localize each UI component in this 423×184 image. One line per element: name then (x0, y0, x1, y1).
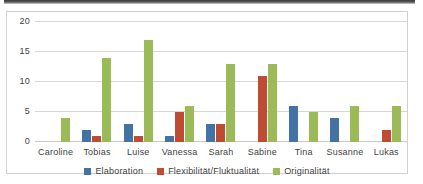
bar-group-bars (200, 22, 241, 142)
bar-group-bars (324, 22, 365, 142)
bar[interactable] (102, 58, 111, 142)
bar-group-bars (118, 22, 159, 142)
legend-swatch-icon (157, 168, 164, 175)
bar-group-bars (283, 22, 324, 142)
bar[interactable] (175, 112, 184, 142)
bar[interactable] (350, 106, 359, 142)
x-axis-category-label: Vanessa (162, 147, 198, 157)
x-axis-category-label: Tina (295, 147, 313, 157)
bar[interactable] (124, 124, 133, 142)
bar[interactable] (258, 76, 267, 142)
bar[interactable] (382, 130, 391, 142)
bar-group-bars (35, 22, 76, 142)
bar[interactable] (144, 40, 153, 142)
bar[interactable] (330, 118, 339, 142)
bar-group-bars (242, 22, 283, 142)
bar[interactable] (61, 118, 70, 142)
x-axis-category-label: Caroline (38, 147, 73, 157)
bar-group: Tina (283, 22, 324, 142)
x-axis-category-label: Tobias (83, 147, 110, 157)
bar[interactable] (165, 136, 174, 142)
bar[interactable] (92, 136, 101, 142)
bar-group-bars (76, 22, 117, 142)
x-axis-category-label: Sabine (248, 147, 277, 157)
chart-screenshot: 05101520 CarolineTobiasLuiseVanessaSarah… (0, 0, 423, 184)
legend-item[interactable]: Flexibilität/Fluktualität (157, 166, 259, 176)
top-edge-strip (4, 0, 415, 4)
y-axis-tick-label: 5 (25, 106, 30, 116)
bar-group: Luise (118, 22, 159, 142)
y-axis-tick-label: 10 (20, 76, 30, 86)
bar-group: Sarah (200, 22, 241, 142)
y-axis-tick-label: 15 (20, 46, 30, 56)
bar-group: Lukas (366, 22, 407, 142)
legend-swatch-icon (84, 168, 91, 175)
bar[interactable] (206, 124, 215, 142)
bar[interactable] (289, 106, 298, 142)
legend-swatch-icon (273, 168, 280, 175)
bar-group: Vanessa (159, 22, 200, 142)
chart-legend: ElaborationFlexibilität/FluktualitätOrig… (7, 166, 407, 176)
bar[interactable] (185, 106, 194, 142)
legend-item[interactable]: Originalität (273, 166, 329, 176)
x-axis-category-label: Lukas (374, 147, 399, 157)
bar-group: Tobias (76, 22, 117, 142)
bar[interactable] (134, 136, 143, 142)
bar[interactable] (82, 130, 91, 142)
plot-area: 05101520 CarolineTobiasLuiseVanessaSarah… (35, 22, 407, 142)
y-axis-tick-label: 20 (20, 16, 30, 26)
chart-frame: 05101520 CarolineTobiasLuiseVanessaSarah… (6, 11, 408, 174)
bar-group: Caroline (35, 22, 76, 142)
legend-label: Originalität (284, 166, 329, 176)
x-axis-category-label: Susanne (327, 147, 364, 157)
y-axis-tick-label: 0 (25, 136, 30, 146)
legend-label: Flexibilität/Fluktualität (168, 166, 259, 176)
bar[interactable] (216, 124, 225, 142)
bar-group: Sabine (242, 22, 283, 142)
x-axis-category-label: Luise (127, 147, 150, 157)
bar[interactable] (309, 112, 318, 142)
bar[interactable] (226, 64, 235, 142)
legend-item[interactable]: Elaboration (84, 166, 143, 176)
x-axis-category-label: Sarah (208, 147, 233, 157)
bar[interactable] (392, 106, 401, 142)
bar[interactable] (268, 64, 277, 142)
legend-label: Elaboration (95, 166, 143, 176)
bar-group-bars (366, 22, 407, 142)
bar-group-bars (159, 22, 200, 142)
bar-group: Susanne (324, 22, 365, 142)
